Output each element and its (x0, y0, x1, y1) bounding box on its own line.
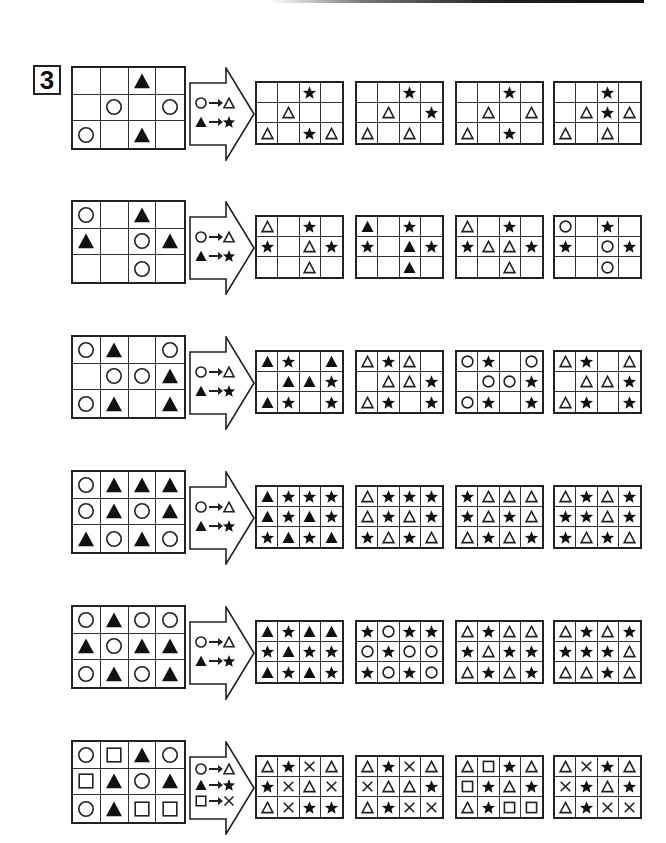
grid-cell (73, 795, 101, 822)
answer-option-grid[interactable] (553, 755, 642, 819)
grid-cell (619, 527, 640, 547)
answer-option-grid[interactable] (255, 350, 344, 414)
answer-option-grid[interactable] (553, 485, 642, 549)
cross-icon (424, 800, 439, 815)
grid-cell (300, 777, 321, 797)
grid-cell (321, 777, 342, 797)
source-grid (71, 740, 186, 824)
grid-cell (521, 257, 542, 277)
answer-option-grid[interactable] (255, 81, 344, 145)
grid-cell (457, 372, 478, 392)
cross-icon (600, 800, 615, 815)
answer-option-grid[interactable] (255, 755, 344, 819)
star-icon (324, 644, 339, 659)
grid-cell (500, 777, 521, 797)
grid-cell (421, 392, 442, 412)
filled-triangle-icon (104, 340, 124, 360)
grid-cell (619, 777, 640, 797)
grid-cell (421, 83, 442, 103)
star-icon (579, 489, 594, 504)
answer-option-grid[interactable] (553, 215, 642, 279)
outline-triangle-icon (360, 354, 375, 369)
circle-icon (600, 239, 615, 254)
source-grid (71, 200, 186, 284)
filled-triangle-icon (76, 529, 96, 549)
cross-icon (558, 779, 573, 794)
star-icon (360, 530, 375, 545)
answer-option-grid[interactable] (355, 350, 444, 414)
answer-option-grid[interactable] (355, 81, 444, 145)
grid-cell (321, 757, 342, 777)
grid-cell (378, 123, 399, 143)
answer-option-grid[interactable] (455, 350, 544, 414)
circle-icon (424, 665, 439, 680)
answer-option-grid[interactable] (553, 620, 642, 684)
grid-cell (156, 68, 184, 95)
answer-option-grid[interactable] (355, 755, 444, 819)
answer-option-grid[interactable] (455, 755, 544, 819)
grid-cell (257, 257, 278, 277)
answer-option-grid[interactable] (553, 350, 642, 414)
cross-icon (302, 759, 317, 774)
answer-option-grid[interactable] (255, 215, 344, 279)
star-icon (481, 779, 496, 794)
circle-icon (460, 354, 475, 369)
star-icon (622, 395, 637, 410)
filled-triangle-icon (132, 475, 152, 495)
square-icon (524, 800, 539, 815)
answer-option-grid[interactable] (355, 485, 444, 549)
outline-triangle-icon (600, 489, 615, 504)
grid-cell (321, 217, 342, 237)
grid-cell (576, 83, 597, 103)
filled-triangle-icon (160, 636, 180, 656)
grid-cell (521, 352, 542, 372)
grid-cell (598, 777, 619, 797)
filled-triangle-icon (360, 219, 375, 234)
answer-option-grid[interactable] (255, 485, 344, 549)
grid-cell (73, 634, 101, 661)
outline-triangle-icon (502, 239, 517, 254)
filled-triangle-icon (260, 489, 275, 504)
outline-triangle-icon (579, 665, 594, 680)
grid-cell (576, 757, 597, 777)
grid-cell (357, 507, 378, 527)
grid-cell (400, 352, 421, 372)
grid-cell (400, 487, 421, 507)
circle-icon (160, 340, 180, 360)
circle-icon (76, 501, 96, 521)
grid-cell (357, 757, 378, 777)
grid-cell (457, 352, 478, 372)
star-icon (460, 489, 475, 504)
grid-cell (357, 123, 378, 143)
answer-option-grid[interactable] (355, 620, 444, 684)
answer-option-grid[interactable] (455, 485, 544, 549)
answer-option-grid[interactable] (553, 81, 642, 145)
grid-cell (278, 103, 299, 123)
grid-cell (278, 757, 299, 777)
star-icon (622, 509, 637, 524)
grid-cell (156, 95, 184, 122)
answer-option-grid[interactable] (255, 620, 344, 684)
grid-cell (321, 392, 342, 412)
answer-option-grid[interactable] (455, 215, 544, 279)
grid-cell (619, 392, 640, 412)
filled-triangle-icon (132, 636, 152, 656)
grid-cell (555, 372, 576, 392)
grid-cell (421, 352, 442, 372)
grid-cell (156, 229, 184, 256)
outline-triangle-icon (222, 230, 236, 244)
answer-option-grid[interactable] (455, 620, 544, 684)
outline-triangle-icon (460, 126, 475, 141)
grid-cell (378, 797, 399, 817)
answer-option-grid[interactable] (455, 81, 544, 145)
answer-option-grid[interactable] (355, 215, 444, 279)
filled-triangle-icon (402, 239, 417, 254)
square-icon (76, 771, 96, 791)
star-icon (222, 249, 236, 263)
grid-cell (73, 660, 101, 687)
grid-cell (521, 217, 542, 237)
star-icon (502, 759, 517, 774)
grid-cell (555, 217, 576, 237)
transform-rule (194, 249, 236, 263)
grid-cell (400, 257, 421, 277)
